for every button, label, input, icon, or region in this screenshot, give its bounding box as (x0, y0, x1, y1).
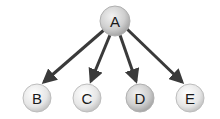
node-e: E (176, 84, 204, 112)
node-a: A (100, 6, 130, 36)
edge-a-e (127, 29, 182, 82)
edges (44, 29, 182, 82)
edge-a-d (120, 35, 136, 81)
node-b-label: B (32, 90, 42, 107)
node-e-label: E (185, 90, 195, 107)
node-d-label: D (135, 90, 146, 107)
tree-diagram: A B C D E (0, 0, 220, 119)
node-c-label: C (82, 90, 93, 107)
node-a-label: A (110, 13, 120, 30)
node-d: D (126, 84, 154, 112)
node-b: B (23, 84, 51, 112)
node-c: C (73, 84, 101, 112)
edge-a-c (91, 35, 110, 81)
